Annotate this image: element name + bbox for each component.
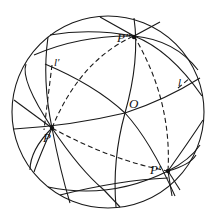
label-o: O: [129, 96, 139, 111]
meridian-p-double-prime: [115, 18, 136, 207]
great-circle-l: [14, 78, 200, 129]
label-p: P: [42, 130, 51, 145]
label-p-prime: P′: [149, 162, 161, 177]
sphere-diagram: P″ l′ l O P P′: [0, 0, 210, 219]
label-l: l: [178, 76, 181, 88]
sphere-outline: [12, 16, 204, 208]
arc-bottom-2: [60, 178, 168, 195]
label-p-double-prime: P″: [116, 30, 131, 45]
point-p-double-prime: [132, 35, 136, 39]
line-bottom-3: [104, 190, 120, 207]
line-p-4: [52, 128, 104, 190]
point-p-prime: [166, 169, 170, 173]
label-l-prime: l′: [54, 56, 60, 68]
